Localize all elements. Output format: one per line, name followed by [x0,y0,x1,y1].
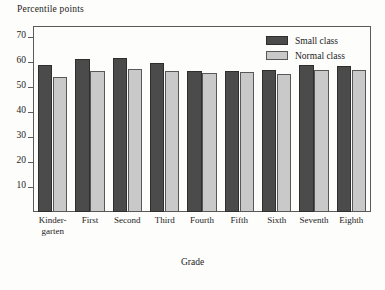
bar-normal-class [128,69,143,212]
bar-small-class [113,58,128,212]
y-tick-mark [28,112,33,113]
chart-figure: Percentile points 10203040506070 Kinder-… [0,0,385,290]
bar-group [109,27,146,212]
bar-small-class [262,70,277,212]
y-axis-title: Percentile points [17,4,84,14]
legend-entry: Normal class [266,49,345,62]
bar-group [71,27,108,212]
y-tick-label: 30 [17,130,27,140]
bar-small-class [38,65,53,212]
bar-normal-class [352,70,367,212]
bar-group [34,27,71,212]
chart-legend: Small classNormal class [262,31,350,65]
legend-label: Small class [295,36,338,46]
bar-normal-class [165,71,180,212]
dark-swatch [266,36,288,45]
bar-group [146,27,183,212]
y-tick-label: 60 [17,55,27,65]
bar-small-class [337,66,352,212]
y-tick-label: 50 [17,80,27,90]
bar-small-class [299,65,314,212]
bar-small-class [75,59,90,212]
y-tick-mark [28,162,33,163]
y-tick-mark [28,62,33,63]
bar-normal-class [202,73,217,213]
bar-normal-class [314,70,329,212]
bar-normal-class [53,77,68,212]
bar-normal-class [90,71,105,212]
y-tick-mark [28,37,33,38]
bar-normal-class [240,72,255,212]
y-tick-label: 20 [17,155,27,165]
legend-entry: Small class [266,34,345,47]
bar-small-class [187,71,202,212]
y-tick-mark [28,137,33,138]
bar-group [183,27,220,212]
x-axis-title: Grade [0,257,385,267]
y-tick-label: 10 [17,180,27,190]
bar-normal-class [277,74,292,213]
bar-small-class [225,71,240,213]
x-tick-label: Eighth [311,215,385,226]
y-tick-mark [28,87,33,88]
y-tick-label: 70 [17,30,27,40]
y-tick-label: 40 [17,105,27,115]
y-tick-mark [28,187,33,188]
legend-label: Normal class [295,51,345,61]
bar-small-class [150,63,165,212]
light-swatch [266,51,288,60]
bar-group [221,27,258,212]
